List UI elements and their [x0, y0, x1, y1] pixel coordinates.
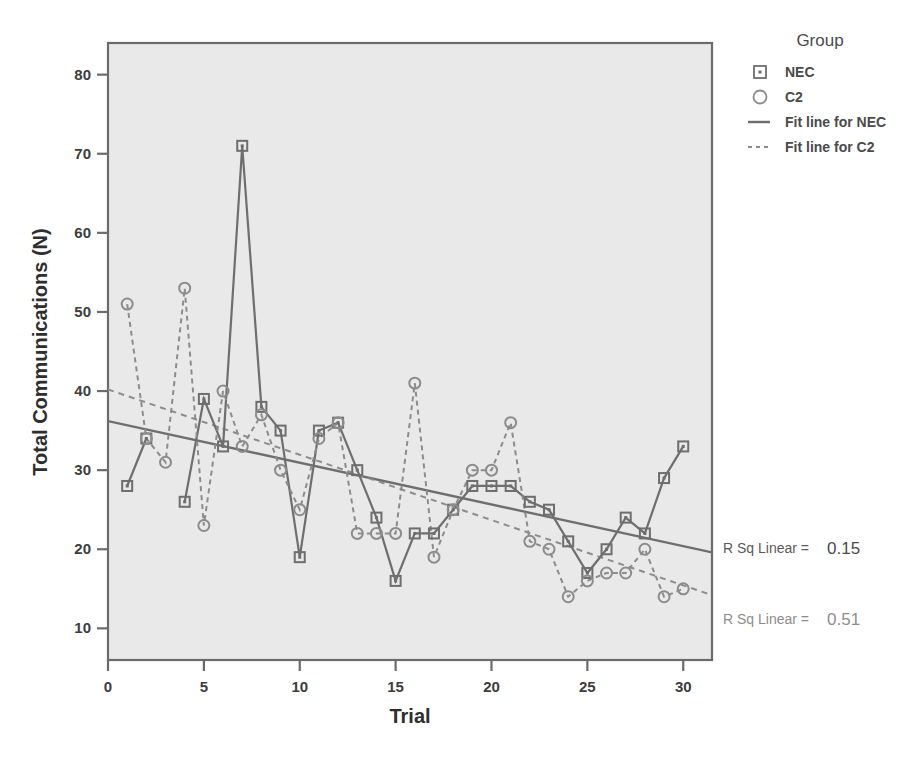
x-axis-ticks: 051015202530	[104, 660, 692, 695]
data-point-center	[509, 484, 512, 487]
data-point-center	[528, 500, 531, 503]
data-point-center	[279, 429, 282, 432]
y-tick-label: 60	[74, 224, 91, 241]
legend-items: NECC2Fit line for NECFit line for C2	[748, 64, 886, 155]
data-point-center	[624, 516, 627, 519]
data-point-center	[586, 571, 589, 574]
data-point-center	[202, 397, 205, 400]
y-axis-ticks: 1020304050607080	[74, 66, 108, 637]
data-point-center	[413, 532, 416, 535]
data-point-center	[452, 508, 455, 511]
y-tick-label: 40	[74, 382, 91, 399]
x-tick-label: 0	[104, 678, 112, 695]
y-axis-title: Total Communications (N)	[29, 228, 51, 475]
plot-area-background	[108, 43, 712, 660]
legend-item-label: Fit line for NEC	[785, 114, 886, 130]
data-point-center	[145, 437, 148, 440]
x-tick-label: 15	[387, 678, 404, 695]
data-point-center	[643, 532, 646, 535]
x-tick-label: 30	[675, 678, 692, 695]
data-point-center	[375, 516, 378, 519]
r-sq-value-nec: 0.15	[827, 539, 860, 558]
y-tick-label: 10	[74, 619, 91, 636]
x-tick-label: 5	[200, 678, 208, 695]
data-point-center	[222, 445, 225, 448]
data-point-center	[337, 421, 340, 424]
data-point-center	[241, 144, 244, 147]
legend-item-label: Fit line for C2	[785, 139, 875, 155]
data-point-center	[183, 500, 186, 503]
scatter-plot-svg: 1020304050607080 051015202530 Trial Tota…	[0, 0, 923, 764]
data-point-center	[605, 548, 608, 551]
y-tick-label: 50	[74, 303, 91, 320]
y-tick-label: 70	[74, 145, 91, 162]
data-point-center	[298, 556, 301, 559]
r-squared-annotations: R Sq Linear = 0.15 R Sq Linear = 0.51	[723, 539, 860, 629]
x-tick-label: 20	[483, 678, 500, 695]
data-point-center	[567, 540, 570, 543]
data-point-center	[663, 477, 666, 480]
data-point-center	[260, 405, 263, 408]
chart-figure: 1020304050607080 051015202530 Trial Tota…	[0, 0, 923, 764]
r-sq-value-c2: 0.51	[827, 610, 860, 629]
data-point-center	[394, 579, 397, 582]
data-point-center	[126, 484, 129, 487]
x-axis-title: Trial	[389, 705, 430, 727]
legend-item-label: C2	[785, 89, 803, 105]
r-sq-label-nec: R Sq Linear =	[723, 540, 809, 556]
data-point-center	[432, 532, 435, 535]
data-point-center	[471, 484, 474, 487]
y-tick-label: 20	[74, 540, 91, 557]
data-point-center	[317, 429, 320, 432]
legend: Group NECC2Fit line for NECFit line for …	[748, 31, 886, 155]
y-tick-label: 30	[74, 461, 91, 478]
data-point-center	[682, 445, 685, 448]
r-sq-label-c2: R Sq Linear =	[723, 611, 809, 627]
legend-title: Group	[796, 31, 843, 50]
data-point-center	[548, 508, 551, 511]
data-point-center	[490, 484, 493, 487]
y-tick-label: 80	[74, 66, 91, 83]
x-tick-label: 10	[291, 678, 308, 695]
legend-square-marker-center	[759, 71, 762, 74]
data-point-center	[356, 469, 359, 472]
legend-item-label: NEC	[785, 64, 815, 80]
legend-circle-marker-icon	[754, 91, 767, 104]
x-tick-label: 25	[579, 678, 596, 695]
